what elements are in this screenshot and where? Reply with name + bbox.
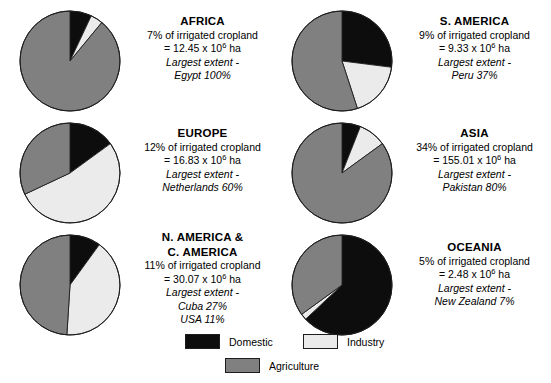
area-unit: ha xyxy=(495,268,510,280)
panel-n-c-america: N. AMERICA & C. AMERICA 11% of irrigated… xyxy=(2,230,277,342)
largest-extent-label: Largest extent - xyxy=(400,282,549,295)
caption-oceania: OCEANIA 5% of irrigated cropland = 2.48 … xyxy=(400,240,549,308)
pie-svg-europe xyxy=(18,121,122,225)
irrigated-area: = 16.83 x 106 ha xyxy=(128,154,277,167)
pie-svg-africa xyxy=(18,9,122,113)
chart-legend: Domestic Industry Agriculture xyxy=(0,332,551,382)
area-text: = 9.33 x 10 xyxy=(439,42,491,54)
largest-extent-item: Cuba 27% xyxy=(128,300,277,313)
legend-swatch-industry-icon xyxy=(303,334,338,349)
pie-chart-europe xyxy=(18,121,122,225)
region-title: S. AMERICA xyxy=(400,14,549,29)
area-unit: ha xyxy=(501,154,516,166)
largest-extent-label: Largest extent - xyxy=(128,168,277,181)
area-text: = 16.83 x 10 xyxy=(164,154,222,166)
pie-svg-s-america xyxy=(290,9,394,113)
irrigated-area: = 12.45 x 106 ha xyxy=(128,42,277,55)
largest-extent-label: Largest extent - xyxy=(400,168,549,181)
legend-item-agriculture: Agriculture xyxy=(225,358,319,373)
area-text: = 155.01 x 10 xyxy=(433,154,497,166)
irrigated-share: 9% of irrigated cropland xyxy=(400,29,549,42)
legend-label-agriculture: Agriculture xyxy=(269,360,319,372)
panel-europe: EUROPE 12% of irrigated cropland = 16.83… xyxy=(2,118,277,230)
legend-label-industry: Industry xyxy=(347,336,384,348)
pie-chart-s-america xyxy=(290,9,394,113)
irrigated-area: = 30.07 x 106 ha xyxy=(128,273,277,286)
largest-extent-label: Largest extent - xyxy=(128,286,277,299)
largest-extent-item: Peru 37% xyxy=(400,69,549,82)
pie-chart-n-c-america xyxy=(18,233,122,337)
pie-chart-africa xyxy=(18,9,122,113)
area-unit: ha xyxy=(226,273,241,285)
pie-svg-oceania xyxy=(290,233,394,337)
region-title: EUROPE xyxy=(128,126,277,141)
legend-swatch-domestic-icon xyxy=(185,334,220,349)
largest-extent-label: Largest extent - xyxy=(400,56,549,69)
area-unit: ha xyxy=(495,42,510,54)
panel-africa: AFRICA 7% of irrigated cropland = 12.45 … xyxy=(2,6,277,118)
irrigated-area: = 155.01 x 106 ha xyxy=(400,154,549,167)
region-title: ASIA xyxy=(400,126,549,141)
legend-label-domestic: Domestic xyxy=(229,336,273,348)
panel-asia: ASIA 34% of irrigated cropland = 155.01 … xyxy=(274,118,549,230)
area-text: = 12.45 x 10 xyxy=(164,42,222,54)
irrigated-share: 12% of irrigated cropland xyxy=(128,141,277,154)
largest-extent-item: Netherlands 60% xyxy=(128,181,277,194)
pie-svg-n-c-america xyxy=(18,233,122,337)
pie-slice-agriculture xyxy=(20,11,120,111)
area-text: = 30.07 x 10 xyxy=(164,273,222,285)
caption-s-america: S. AMERICA 9% of irrigated cropland = 9.… xyxy=(400,14,549,82)
caption-africa: AFRICA 7% of irrigated cropland = 12.45 … xyxy=(128,14,277,82)
area-unit: ha xyxy=(226,42,241,54)
irrigated-share: 7% of irrigated cropland xyxy=(128,29,277,42)
largest-extent-item: Egypt 100% xyxy=(128,69,277,82)
irrigated-share: 11% of irrigated cropland xyxy=(128,259,277,272)
region-title: N. AMERICA & C. AMERICA xyxy=(128,230,277,259)
largest-extent-label: Largest extent - xyxy=(128,56,277,69)
pie-slice-agriculture xyxy=(20,235,70,335)
caption-asia: ASIA 34% of irrigated cropland = 155.01 … xyxy=(400,126,549,194)
pie-slice-domestic xyxy=(342,11,392,67)
largest-extent-item-secondary: USA 11% xyxy=(128,313,277,326)
pie-chart-figure: AFRICA 7% of irrigated cropland = 12.45 … xyxy=(0,0,551,383)
largest-extent-item: New Zealand 7% xyxy=(400,295,549,308)
area-text: = 2.48 x 10 xyxy=(439,268,491,280)
area-unit: ha xyxy=(226,154,241,166)
panel-oceania: OCEANIA 5% of irrigated cropland = 2.48 … xyxy=(274,230,549,342)
pie-svg-asia xyxy=(290,121,394,225)
pie-chart-asia xyxy=(290,121,394,225)
region-title: AFRICA xyxy=(128,14,277,29)
panel-s-america: S. AMERICA 9% of irrigated cropland = 9.… xyxy=(274,6,549,118)
largest-extent-item: Pakistan 80% xyxy=(400,181,549,194)
pie-chart-oceania xyxy=(290,233,394,337)
irrigated-area: = 9.33 x 106 ha xyxy=(400,42,549,55)
caption-n-c-america: N. AMERICA & C. AMERICA 11% of irrigated… xyxy=(128,230,277,327)
irrigated-share: 34% of irrigated cropland xyxy=(400,141,549,154)
irrigated-share: 5% of irrigated cropland xyxy=(400,255,549,268)
region-title: OCEANIA xyxy=(400,240,549,255)
legend-item-domestic: Domestic xyxy=(185,334,273,349)
legend-item-industry: Industry xyxy=(303,334,384,349)
irrigated-area: = 2.48 x 106 ha xyxy=(400,268,549,281)
legend-swatch-agriculture-icon xyxy=(225,358,260,373)
caption-europe: EUROPE 12% of irrigated cropland = 16.83… xyxy=(128,126,277,194)
